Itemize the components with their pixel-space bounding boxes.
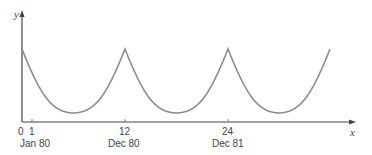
tick-label-12: 12 xyxy=(119,126,131,137)
chart: y x 0 1 12 24 Jan 80 Dec 80 Dec 81 xyxy=(0,0,372,155)
tick-label-1: 1 xyxy=(29,126,35,137)
tick-label-0: 0 xyxy=(18,126,24,137)
tick-sublabel-jan80: Jan 80 xyxy=(20,138,50,149)
y-axis-arrow-icon xyxy=(20,10,25,17)
x-axis-label: x xyxy=(349,126,355,138)
y-axis-label: y xyxy=(13,8,19,20)
tick-label-24: 24 xyxy=(222,126,234,137)
tick-sublabel-dec80: Dec 80 xyxy=(108,138,140,149)
x-axis-arrow-icon xyxy=(349,120,356,125)
tick-sublabel-dec81: Dec 81 xyxy=(212,138,244,149)
data-curve xyxy=(22,49,330,113)
